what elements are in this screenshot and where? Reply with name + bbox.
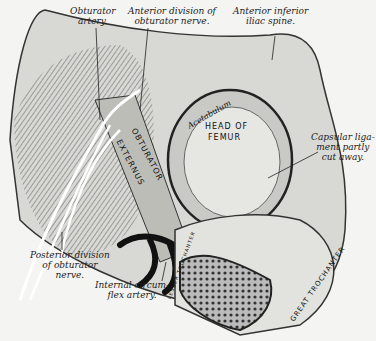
label-internal-circumflex-artery: Internal circum- flex artery. [95,280,169,300]
label-head-of-femur-line2: FEMUR [208,133,241,142]
label-anterior-division-obturator-nerve: Anterior division of obturator nerve. [128,6,216,26]
anatomy-illustration: Obturator artery. Anterior division of o… [0,0,376,341]
label-head-of-femur-line1: HEAD OF [205,122,248,131]
hip-joint-drawing [0,0,376,341]
label-anterior-inferior-iliac-spine: Anterior inferior iliac spine. [233,6,308,26]
label-posterior-division-obturator-nerve: Posterior division of obturator nerve. [30,250,110,280]
label-obturator-artery: Obturator artery. [70,6,116,26]
label-capsular-ligament: Capsular liga- ment partly cut away. [311,132,375,162]
